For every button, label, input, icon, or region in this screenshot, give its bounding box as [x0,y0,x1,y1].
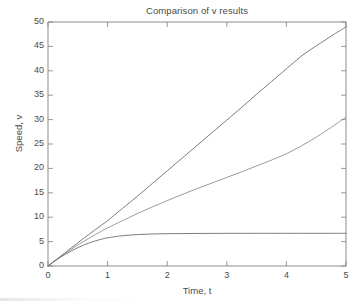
x-tick-label: 0 [33,270,63,280]
y-tick-label: 35 [4,90,44,99]
y-tick-label: 40 [4,66,44,75]
curve-middle [48,117,346,266]
y-tick-label: 25 [4,139,44,148]
y-tick-label: 30 [4,115,44,124]
plot-area [0,0,360,304]
x-axis-ticks [48,22,346,266]
x-tick-label: 4 [271,270,301,280]
y-tick-label: 20 [4,163,44,172]
y-tick-label: 50 [4,17,44,26]
y-axis-ticks [48,22,346,266]
x-tick-label: 3 [212,270,242,280]
scan-artifact [0,298,150,301]
figure-canvas: Comparison of v results 0510152025303540… [0,0,360,304]
y-tick-label: 45 [4,41,44,50]
axes-frame [48,22,346,266]
y-tick-label: 5 [4,237,44,246]
y-tick-label: 10 [4,212,44,221]
x-tick-label: 1 [93,270,123,280]
data-series-group [48,27,346,266]
y-axis-label: Speed, v [13,94,24,174]
x-axis-label: Time, t [48,285,346,296]
curve-lower [48,233,346,266]
y-tick-label: 15 [4,188,44,197]
y-tick-label: 0 [4,261,44,270]
x-tick-label: 2 [152,270,182,280]
x-tick-label: 5 [331,270,360,280]
